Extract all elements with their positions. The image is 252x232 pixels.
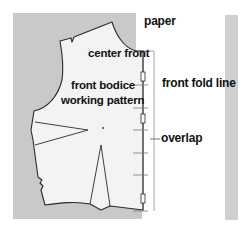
buttonhole-2 bbox=[141, 114, 145, 123]
fold-strip bbox=[225, 15, 238, 220]
label-center-front: center front bbox=[88, 47, 150, 59]
label-overlap: overlap bbox=[161, 131, 202, 145]
buttonhole-3 bbox=[141, 194, 145, 203]
pattern-diagram bbox=[0, 0, 252, 232]
bust-point bbox=[102, 127, 104, 129]
label-working-pattern: working pattern bbox=[61, 94, 144, 106]
label-front-fold-line: front fold line bbox=[162, 76, 236, 90]
label-front-bodice: front bodice bbox=[71, 79, 135, 91]
label-paper: paper bbox=[144, 14, 176, 28]
buttonhole-1 bbox=[141, 72, 145, 81]
